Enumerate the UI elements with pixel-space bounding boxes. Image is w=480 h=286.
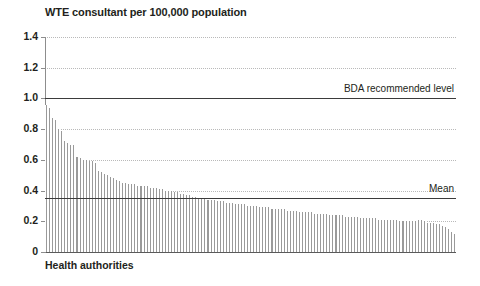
bar-series — [45, 37, 456, 252]
reference-line — [45, 198, 456, 199]
reference-line-label: BDA recommended level — [344, 83, 454, 94]
y-axis-tick-labels: 00.20.40.60.81.01.21.4 — [0, 0, 38, 286]
reference-line-label: Mean — [429, 183, 454, 194]
y-axis-tick-label: 0.4 — [23, 184, 38, 196]
y-axis-tick-label: 1.2 — [23, 61, 38, 73]
reference-line — [45, 98, 456, 99]
y-axis-tick — [41, 252, 46, 253]
y-axis-tick-label: 1.4 — [23, 30, 38, 42]
y-axis-tick-label: 0.2 — [23, 214, 38, 226]
y-axis-tick-label: 0.6 — [23, 153, 38, 165]
x-axis-label: Health authorities — [45, 259, 134, 271]
chart-title: WTE consultant per 100,000 population — [45, 6, 247, 18]
y-axis-tick-label: 0 — [32, 245, 38, 257]
chart-container: WTE consultant per 100,000 population 00… — [0, 0, 480, 286]
x-axis-line — [45, 252, 456, 253]
y-axis-tick-label: 1.0 — [23, 91, 38, 103]
bar — [453, 234, 456, 252]
y-axis-tick-label: 0.8 — [23, 122, 38, 134]
